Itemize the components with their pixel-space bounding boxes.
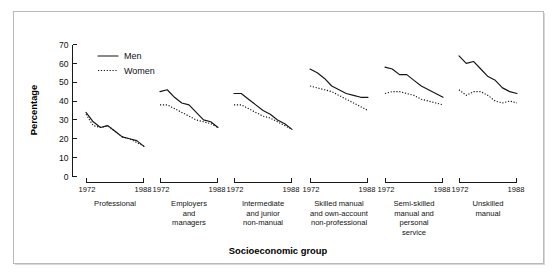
y-axis: 010203040506070: [59, 40, 77, 182]
y-tick-label: 40: [59, 96, 69, 106]
x-tick-label-end: 1988: [434, 185, 451, 194]
panel-label-line: and own-account: [310, 209, 369, 218]
chart-plot-area: Percentage 010203040506070 MenWomen 1972…: [0, 0, 557, 280]
y-tick-label: 50: [59, 77, 69, 87]
panel-label-line: service: [402, 228, 426, 237]
x-tick-label-end: 1988: [508, 185, 525, 194]
series-line-women: [234, 105, 292, 130]
series-line-women: [459, 90, 517, 103]
legend-label-women: Women: [124, 66, 155, 76]
panel-label-line: Professional: [94, 199, 136, 208]
panel-label-line: Intermediate: [242, 199, 284, 208]
x-tick-label-start: 1972: [378, 185, 395, 194]
panel-5: 19721988Semi-skilledmanual andpersonalse…: [378, 67, 451, 237]
series-line-men: [86, 112, 144, 146]
chart-panels: 19721988Professional19721988Employersand…: [79, 56, 525, 237]
series-line-women: [160, 105, 218, 128]
panel-label-line: manual: [476, 209, 501, 218]
chart-legend: MenWomen: [98, 51, 155, 76]
panel-label-line: personal: [399, 218, 428, 227]
legend-label-men: Men: [124, 51, 142, 61]
panel-label-line: and: [183, 209, 196, 218]
series-line-men: [234, 94, 292, 130]
series-line-women: [86, 114, 144, 146]
panel-label-line: Employers: [171, 199, 207, 208]
x-tick-label-end: 1988: [359, 185, 376, 194]
panel-label-line: manual and: [394, 209, 434, 218]
x-tick-label-start: 1972: [303, 185, 320, 194]
x-tick-label-end: 1988: [283, 185, 300, 194]
panel-label-line: non-professional: [311, 218, 367, 227]
panel-4: 19721988Skilled manualand own-accountnon…: [303, 69, 376, 227]
series-line-women: [385, 92, 443, 105]
series-line-men: [459, 56, 517, 94]
series-line-men: [160, 90, 218, 128]
y-axis-title: Percentage: [28, 85, 39, 136]
panel-label-line: non-manual: [243, 218, 283, 227]
x-tick-label-start: 1972: [153, 185, 170, 194]
y-tick-label: 70: [59, 40, 69, 50]
panel-label-line: and junior: [246, 209, 280, 218]
panel-label-line: Skilled manual: [314, 199, 364, 208]
y-tick-label: 10: [59, 153, 69, 163]
x-tick-label-end: 1988: [135, 185, 152, 194]
panel-1: 19721988Professional: [79, 112, 152, 208]
y-tick-label: 60: [59, 59, 69, 69]
x-tick-label-start: 1972: [452, 185, 469, 194]
series-line-men: [385, 67, 443, 97]
panel-label-line: managers: [172, 218, 206, 227]
chart-page: Percentage 010203040506070 MenWomen 1972…: [0, 0, 557, 280]
y-tick-label: 20: [59, 134, 69, 144]
y-tick-label: 30: [59, 115, 69, 125]
panel-label-line: Semi-skilled: [394, 199, 435, 208]
series-line-men: [310, 69, 368, 97]
x-tick-label-start: 1972: [227, 185, 244, 194]
panel-2: 19721988Employersandmanagers: [153, 90, 226, 227]
x-tick-label-end: 1988: [209, 185, 226, 194]
panel-label-line: Unskilled: [473, 199, 504, 208]
panel-6: 19721988Unskilledmanual: [452, 56, 525, 218]
x-tick-label-start: 1972: [79, 185, 96, 194]
y-tick-label: 0: [64, 172, 69, 182]
x-axis-title: Socioeconomic group: [229, 245, 328, 256]
panel-3: 19721988Intermediateand juniornon-manual: [227, 94, 300, 228]
